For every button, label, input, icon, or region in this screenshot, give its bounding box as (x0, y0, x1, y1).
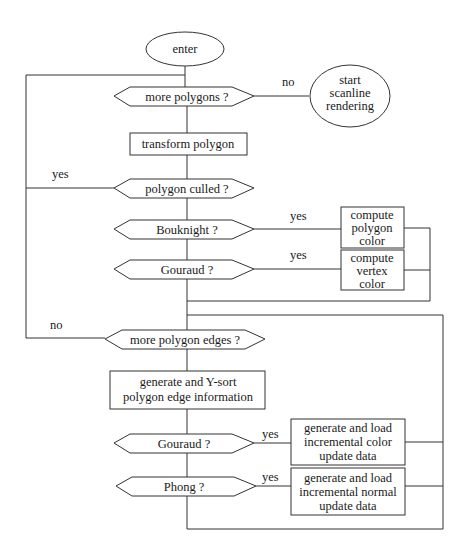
edge-label-gouraud-1-yes: yes (290, 248, 307, 262)
node-incremental-normal-line3: update data (319, 499, 377, 513)
node-incremental-color-line2: incremental color (304, 435, 393, 449)
edge-left-loop (26, 75, 105, 338)
node-gouraud-1: Gouraud ? (114, 260, 254, 279)
node-phong-label: Phong ? (164, 480, 205, 494)
edge-label-more-polygons-no: no (282, 75, 295, 89)
edge-label-phong-yes: yes (262, 470, 279, 484)
node-incremental-color: generate and load incremental color upda… (291, 419, 405, 465)
node-start-scanline-line3: rendering (326, 99, 375, 113)
node-gouraud-2: Gouraud ? (114, 434, 254, 453)
node-polygon-culled: polygon culled ? (114, 179, 254, 198)
node-start-scanline: start scanline rendering (310, 65, 390, 127)
node-compute-polygon-color-line2: polygon (352, 221, 394, 235)
node-generate-sort-line2: polygon edge information (123, 390, 254, 404)
node-more-polygon-edges: more polygon edges ? (105, 330, 265, 349)
node-incremental-normal: generate and load incremental normal upd… (291, 468, 405, 515)
node-compute-vertex-color: compute vertex color (341, 250, 404, 291)
edge-label-polygon-culled-yes: yes (52, 167, 69, 181)
node-generate-sort: generate and Y-sort polygon edge informa… (110, 371, 265, 409)
node-enter: enter (146, 32, 224, 66)
node-transform-polygon: transform polygon (130, 133, 247, 155)
node-gouraud-1-label: Gouraud ? (161, 263, 214, 277)
node-start-scanline-line2: scanline (330, 86, 371, 100)
node-compute-polygon-color-line1: compute (350, 208, 393, 222)
flowchart: enter start scanline rendering more poly… (0, 0, 464, 556)
node-compute-vertex-color-line1: compute (350, 251, 393, 265)
edge-label-more-polygon-edges-no: no (50, 318, 63, 332)
node-phong: Phong ? (116, 477, 256, 496)
node-incremental-normal-line2: incremental normal (299, 485, 397, 499)
node-more-polygon-edges-label: more polygon edges ? (130, 333, 240, 347)
edge-label-gouraud-2-yes: yes (262, 427, 279, 441)
node-start-scanline-line1: start (339, 73, 361, 87)
node-incremental-color-line1: generate and load (304, 421, 393, 435)
node-incremental-color-line3: update data (319, 449, 377, 463)
node-polygon-culled-label: polygon culled ? (145, 182, 229, 196)
node-incremental-normal-line1: generate and load (304, 471, 393, 485)
node-transform-polygon-label: transform polygon (142, 137, 235, 151)
node-gouraud-2-label: Gouraud ? (158, 437, 211, 451)
node-bouknight-label: Bouknight ? (156, 223, 218, 237)
edge-label-bouknight-yes: yes (290, 209, 307, 223)
node-more-polygons: more polygons ? (114, 87, 254, 106)
node-compute-polygon-color-line3: color (359, 234, 386, 248)
node-generate-sort-line1: generate and Y-sort (140, 375, 237, 389)
node-bouknight: Bouknight ? (114, 220, 254, 239)
node-enter-label: enter (173, 42, 199, 56)
node-compute-vertex-color-line2: vertex (356, 264, 388, 278)
node-more-polygons-label: more polygons ? (145, 90, 229, 104)
node-compute-polygon-color: compute polygon color (341, 207, 404, 248)
node-compute-vertex-color-line3: color (359, 277, 386, 291)
